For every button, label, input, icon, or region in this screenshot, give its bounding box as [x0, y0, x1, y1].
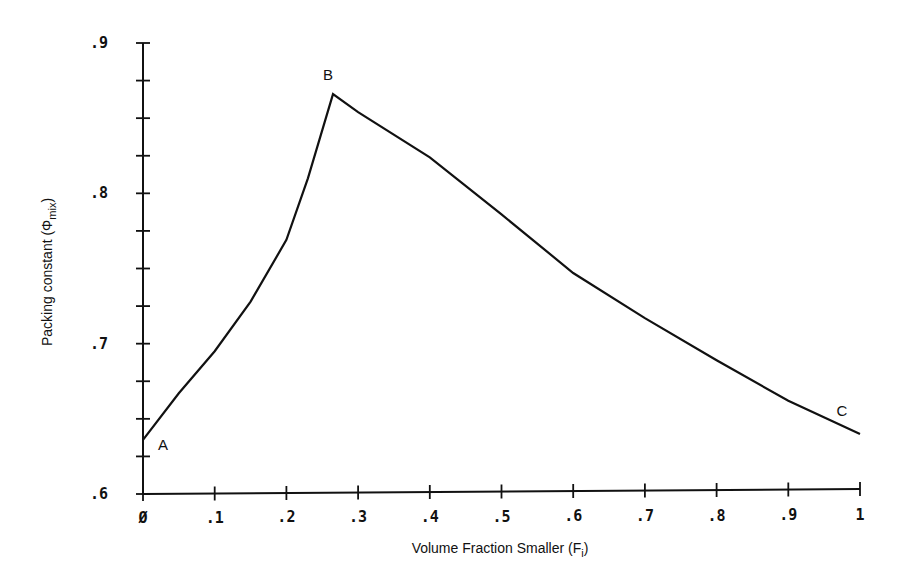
x-tick-label: .8	[708, 507, 726, 525]
x-tick-label: .6	[564, 507, 582, 525]
x-tick-label: .7	[636, 507, 654, 525]
point-label-a: A	[158, 436, 168, 453]
y-axis: .6.7.8.9	[90, 34, 150, 503]
x-tick-label: .5	[492, 508, 510, 526]
y-tick-label: .8	[90, 184, 108, 202]
y-axis-title: Packing constant (Φmix)	[39, 198, 58, 346]
point-label-c: C	[837, 402, 848, 419]
y-tick-label: .9	[90, 34, 108, 52]
x-tick-label: .9	[779, 506, 797, 524]
x-tick-label: .4	[421, 508, 439, 526]
x-tick-label: .3	[349, 508, 367, 526]
y-tick-label: .7	[90, 335, 108, 353]
point-label-b: B	[323, 66, 333, 83]
x-tick-label: 1	[855, 506, 864, 524]
y-tick-label: .6	[90, 485, 108, 503]
point-annotations: ABC	[158, 66, 848, 453]
x-axis-title: Volume Fraction Smaller (Fi)	[412, 540, 589, 559]
x-tick-label: .1	[206, 509, 224, 527]
packing-constant-chart: .6.7.8.9 Ø.1.2.3.4.5.6.7.8.91 ABC Volume…	[0, 0, 898, 584]
x-tick-label: Ø	[137, 509, 147, 527]
x-axis: Ø.1.2.3.4.5.6.7.8.91	[137, 482, 864, 527]
x-tick-label: .2	[277, 508, 295, 526]
packing-curve	[143, 94, 860, 440]
